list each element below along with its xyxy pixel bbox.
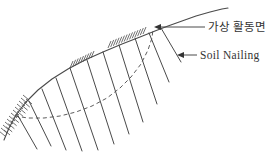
sliding-surface-label: 가상 활동면 <box>208 20 266 34</box>
soil-nail-line <box>161 28 181 62</box>
ground-hatch-tick <box>119 37 122 44</box>
soil-nail-line <box>135 38 157 104</box>
leader-arrowhead-icon <box>154 24 161 30</box>
ground-hatch-tick <box>130 32 133 39</box>
ground-hatch-tick <box>111 40 114 47</box>
ground-hatch-tick <box>4 130 10 135</box>
ground-hatch-tick <box>0 131 5 136</box>
ground-hatch-tick <box>127 33 130 40</box>
ground-hatch-tick <box>135 30 138 37</box>
soil-nail-line <box>119 45 143 122</box>
ground-hatch-tick <box>113 39 116 46</box>
sliding-surface-dashed-curve <box>15 29 153 118</box>
ground-hatch-tick <box>138 29 141 36</box>
soil-nail-line <box>42 89 66 150</box>
soil-nail-line <box>149 33 169 82</box>
ground-hatch-tick <box>140 28 143 35</box>
soil-nail-line <box>56 78 82 151</box>
soil-nail-line <box>17 114 37 149</box>
soil-nailing-label: Soil Nailing <box>200 48 260 62</box>
ground-hatch-tick <box>121 36 124 43</box>
ground-hatch-tick <box>19 108 25 113</box>
slope-surface-curve <box>4 8 228 140</box>
ground-hatch-tick <box>124 35 127 42</box>
ground-hatch-tick <box>132 31 135 38</box>
ground-hatch-tick <box>3 125 9 130</box>
ground-hatch-tick <box>143 27 146 34</box>
ground-hatch-tick <box>5 122 11 127</box>
soil-nail-line <box>29 101 51 146</box>
ground-hatch-tick <box>116 38 119 45</box>
ground-hatch-tick <box>108 41 111 48</box>
soil-nailing-diagram: 가상 활동면 Soil Nailing <box>0 0 271 159</box>
